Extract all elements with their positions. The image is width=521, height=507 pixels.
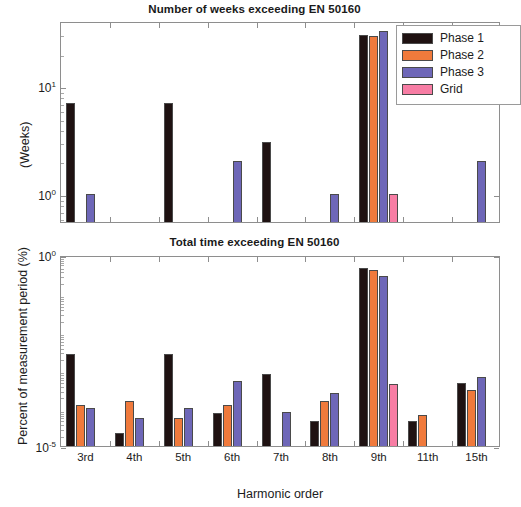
- bar-total_time-5th-phase-3: [184, 408, 193, 446]
- y-minor-tick: [61, 304, 64, 305]
- x-tick-mark: [159, 257, 160, 262]
- y-minor-tick: [61, 297, 64, 298]
- y-minor-tick: [61, 131, 64, 132]
- bar-weeks-9th-phase-2: [369, 36, 378, 222]
- y-minor-tick: [61, 213, 64, 214]
- y-tick-label: 101: [38, 82, 56, 94]
- bar-weeks-8th-phase-3: [330, 194, 339, 222]
- bar-total_time-9th-phase-1: [359, 268, 368, 446]
- legend-swatch-grid: [402, 84, 433, 95]
- x-tick-mark: [305, 217, 306, 222]
- y-minor-tick: [61, 163, 64, 164]
- bar-total_time-11th-phase-1: [408, 421, 417, 446]
- legend-swatch-phase2: [402, 50, 433, 61]
- x-tick-mark: [208, 23, 209, 28]
- legend-label-phase3: Phase 3: [440, 65, 484, 79]
- y-minor-tick: [61, 378, 64, 379]
- y-minor-tick: [61, 360, 64, 361]
- y-minor-tick: [61, 310, 64, 311]
- bar-total_time-8th-phase-3: [330, 393, 339, 446]
- legend-label-phase1: Phase 1: [440, 31, 484, 45]
- bar-total_time-15th-phase-1: [457, 383, 466, 446]
- bar-total_time-8th-phase-2: [320, 401, 329, 446]
- y-minor-tick: [61, 98, 64, 99]
- y-minor-tick: [61, 206, 64, 207]
- y-tick-mark: [494, 448, 499, 449]
- y-minor-tick: [61, 301, 64, 302]
- x-tick-label-6th: 6th: [224, 451, 240, 463]
- y-minor-tick: [61, 437, 64, 438]
- bar-total_time-15th-phase-2: [467, 390, 476, 446]
- bar-total_time-3rd-phase-1: [66, 354, 75, 446]
- y-minor-tick: [61, 272, 64, 273]
- x-tick-mark: [159, 23, 160, 28]
- bar-total_time-9th-grid: [389, 384, 398, 446]
- y-minor-tick: [61, 263, 64, 264]
- x-tick-mark: [403, 217, 404, 222]
- x-tick-mark: [403, 257, 404, 262]
- y-minor-tick: [61, 322, 64, 323]
- bar-total_time-3rd-phase-2: [76, 405, 85, 446]
- y-minor-tick: [61, 373, 64, 374]
- x-tick-mark: [159, 217, 160, 222]
- legend-weeks: Phase 1Phase 2Phase 3Grid: [396, 25, 521, 105]
- y-minor-tick: [61, 265, 64, 266]
- y-tick-mark: [61, 196, 66, 197]
- y-minor-tick: [61, 339, 64, 340]
- y-minor-tick: [61, 345, 64, 346]
- legend-item-grid[interactable]: Grid: [402, 81, 517, 97]
- bar-weeks-3rd-phase-3: [86, 194, 95, 222]
- legend-label-phase2: Phase 2: [440, 48, 484, 62]
- bar-total_time-6th-phase-1: [213, 413, 222, 446]
- y-minor-tick: [61, 144, 64, 145]
- bar-weeks-9th-phase-3: [379, 31, 388, 222]
- bar-weeks-15th-phase-3: [477, 161, 486, 222]
- y-minor-tick: [61, 353, 64, 354]
- y-minor-tick: [61, 398, 64, 399]
- chart-title-total-time: Total time exceeding EN 50160: [0, 236, 509, 248]
- y-minor-tick: [61, 416, 64, 417]
- legend-item-phase3[interactable]: Phase 3: [402, 64, 517, 80]
- y-tick-mark: [494, 257, 499, 258]
- x-tick-label-8th: 8th: [322, 451, 338, 463]
- bar-total_time-15th-phase-3: [477, 377, 486, 446]
- x-tick-mark: [110, 257, 111, 262]
- x-tick-label-5th: 5th: [175, 451, 191, 463]
- y-minor-tick: [61, 261, 64, 262]
- bar-total_time-5th-phase-2: [174, 418, 183, 446]
- y-minor-tick: [61, 383, 64, 384]
- y-minor-tick: [61, 380, 64, 381]
- x-tick-mark: [208, 217, 209, 222]
- y-minor-tick: [61, 299, 64, 300]
- x-tick-mark: [452, 441, 453, 446]
- x-tick-mark: [208, 441, 209, 446]
- x-tick-label-4th: 4th: [126, 451, 142, 463]
- legend-label-grid: Grid: [440, 82, 463, 96]
- bar-total_time-9th-phase-3: [379, 276, 388, 446]
- bar-weeks-3rd-phase-1: [66, 103, 75, 222]
- x-axis-label-total-time: Harmonic order: [60, 487, 500, 501]
- y-minor-tick: [61, 284, 64, 285]
- bar-total_time-5th-phase-1: [164, 354, 173, 446]
- x-tick-mark: [452, 257, 453, 262]
- plot-area-total-time: 10010-53rd4th5th6th7th8th9th11th15th: [60, 256, 500, 447]
- bar-total_time-3rd-phase-3: [86, 408, 95, 446]
- y-minor-tick: [61, 36, 64, 37]
- y-minor-tick: [61, 105, 64, 106]
- x-tick-mark: [110, 217, 111, 222]
- y-minor-tick: [61, 201, 64, 202]
- y-tick-label: 100: [38, 190, 56, 202]
- bar-weeks-9th-grid: [389, 194, 398, 222]
- legend-item-phase1[interactable]: Phase 1: [402, 30, 517, 46]
- panel-weeks: Number of weeks exceeding EN 50160 (Week…: [0, 0, 509, 232]
- x-tick-mark: [305, 23, 306, 28]
- y-minor-tick: [61, 269, 64, 270]
- x-tick-mark: [208, 257, 209, 262]
- legend-item-phase2[interactable]: Phase 2: [402, 47, 517, 63]
- x-tick-label-9th: 9th: [371, 451, 387, 463]
- y-minor-tick: [61, 392, 64, 393]
- y-minor-tick: [61, 349, 64, 350]
- y-minor-tick: [61, 430, 64, 431]
- y-axis-label-weeks: (Weeks): [18, 122, 32, 168]
